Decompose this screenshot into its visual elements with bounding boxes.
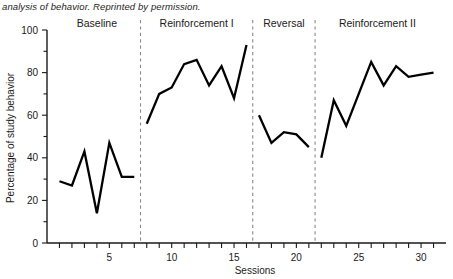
phase-label: Reinforcement I [160,18,234,29]
data-line-reinforcement-ii [321,62,433,158]
line-chart: BaselineReinforcement IReversalReinforce… [0,18,453,279]
phase-divider-group [141,20,316,243]
x-axis-tick-label: 15 [228,252,240,263]
data-line-reversal [259,115,309,147]
data-series-group [59,45,433,213]
x-axis-tick-label: 10 [166,252,178,263]
chart-figure: BaselineReinforcement IReversalReinforce… [0,18,453,279]
y-axis-tick-label: 80 [27,67,39,78]
x-axis-tick-label: 30 [416,252,428,263]
phase-label: Reinforcement II [339,18,416,29]
figure-caption: analysis of behavior. Reprinted by permi… [2,1,201,12]
data-line-reinforcement-i [147,45,247,124]
y-axis-tick-label: 40 [27,152,39,163]
phase-label: Reversal [263,18,304,29]
x-axis-title: Sessions [235,265,276,276]
x-axis-tick-label: 20 [291,252,303,263]
phase-label-group: BaselineReinforcement IReversalReinforce… [77,18,416,29]
y-axis-tick-label: 60 [27,110,39,121]
y-axis-tick-label: 100 [21,25,38,36]
y-axis-tick-label: 20 [27,195,39,206]
y-axis-title: Percentage of study behavior [5,72,16,203]
x-axis-tick-label: 5 [107,252,113,263]
x-axis-tick-label: 25 [353,252,365,263]
x-axis: 51015202530 [47,243,446,263]
data-line-baseline [59,143,134,213]
y-axis-tick-label: 0 [32,238,38,249]
y-axis: 020406080100 [21,25,47,249]
phase-label: Baseline [77,18,117,29]
